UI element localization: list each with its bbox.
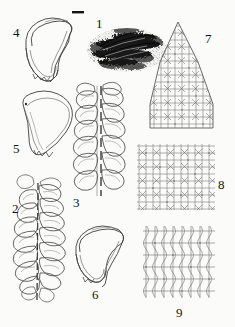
figure-label-7: 7 — [205, 32, 212, 45]
figure-label-4: 4 — [13, 26, 20, 39]
figure-label-5: 5 — [13, 142, 20, 155]
figure-label-1: 1 — [96, 17, 103, 30]
figure-label-6: 6 — [92, 288, 99, 301]
figure-label-3: 3 — [73, 196, 80, 209]
plate-artwork — [0, 0, 235, 327]
scale-bar — [72, 11, 84, 13]
figure-label-9: 9 — [176, 306, 183, 319]
illustration-plate: 1 2 3 4 5 6 7 8 9 — [0, 0, 235, 327]
figure-label-2: 2 — [12, 202, 19, 215]
figure-label-8: 8 — [218, 178, 225, 191]
